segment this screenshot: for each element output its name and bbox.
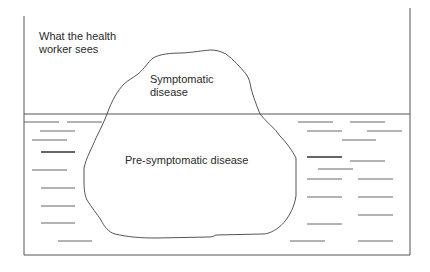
symptomatic-label-line2: disease <box>150 86 214 99</box>
water-lines-right <box>290 122 402 241</box>
visible-region-label: What the health worker sees <box>39 30 116 56</box>
visible-region-label-line2: worker sees <box>39 43 116 56</box>
symptomatic-label-line1: Symptomatic <box>150 73 214 86</box>
pre-symptomatic-label: Pre-symptomatic disease <box>125 154 249 167</box>
visible-region-label-line1: What the health <box>39 30 116 43</box>
water-lines-left <box>24 122 102 241</box>
symptomatic-label: Symptomatic disease <box>150 73 214 99</box>
